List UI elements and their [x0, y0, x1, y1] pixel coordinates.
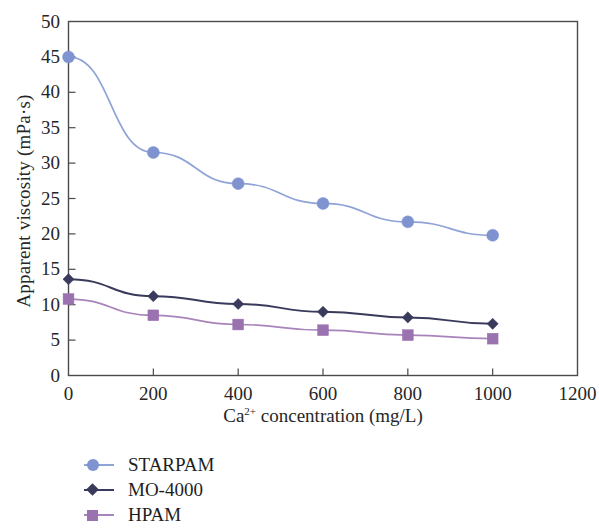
- data-point-circle: [147, 146, 159, 158]
- data-point-circle: [232, 178, 244, 190]
- legend-label: HPAM: [114, 504, 181, 526]
- x-axis-title-superscript: 2+: [244, 405, 256, 417]
- x-tick-label: 1000: [458, 384, 528, 403]
- legend-marker-key: [84, 505, 114, 525]
- chart-figure: Apparent viscosity (mPa·s) 0510152025303…: [0, 0, 599, 529]
- data-point-circle: [487, 229, 499, 241]
- x-tick-label: 400: [203, 384, 273, 403]
- legend-item-starpam[interactable]: STARPAM: [84, 452, 484, 477]
- x-tick-label: 0: [34, 384, 104, 403]
- legend-marker-key: [84, 455, 114, 475]
- x-tick-label: 200: [118, 384, 188, 403]
- data-point-square: [487, 333, 498, 344]
- x-axis-title: Ca2+ concentration (mg/L): [68, 405, 578, 427]
- legend-item-hpam[interactable]: HPAM: [84, 502, 484, 527]
- data-point-circle: [63, 51, 75, 63]
- legend-marker-diamond-icon: [86, 483, 99, 496]
- x-axis-title-rest: concentration (mg/L): [256, 405, 423, 426]
- data-point-diamond: [233, 298, 244, 309]
- data-point-square: [402, 330, 413, 341]
- series-starpam: [63, 51, 499, 241]
- legend-item-mo-4000[interactable]: MO-4000: [84, 477, 484, 502]
- data-point-circle: [402, 216, 414, 228]
- legend-label: MO-4000: [114, 479, 203, 501]
- chart-legend: STARPAMMO-4000HPAM: [84, 452, 484, 527]
- x-tick-label: 1200: [543, 384, 599, 403]
- data-point-square: [148, 310, 159, 321]
- series-line: [69, 57, 493, 235]
- plot-area: [0, 0, 599, 529]
- data-point-square: [318, 325, 329, 336]
- x-axis-title-prefix: Ca: [223, 405, 244, 426]
- series-line: [69, 279, 493, 324]
- data-point-diamond: [148, 291, 159, 302]
- data-point-circle: [317, 197, 329, 209]
- legend-marker-circle-icon: [87, 459, 99, 471]
- x-tick-label: 600: [288, 384, 358, 403]
- data-point-diamond: [63, 274, 74, 285]
- legend-label: STARPAM: [114, 454, 214, 476]
- data-point-square: [233, 319, 244, 330]
- series-mo-4000: [63, 274, 498, 330]
- x-axis-tick-labels: 020040060080010001200: [0, 378, 599, 408]
- x-tick-label: 800: [373, 384, 443, 403]
- data-point-diamond: [317, 306, 328, 317]
- legend-marker-square-icon: [87, 510, 98, 521]
- data-point-diamond: [402, 312, 413, 323]
- data-point-diamond: [487, 318, 498, 329]
- data-series-group: [63, 51, 499, 344]
- legend-marker-key: [84, 480, 114, 500]
- data-point-square: [63, 294, 74, 305]
